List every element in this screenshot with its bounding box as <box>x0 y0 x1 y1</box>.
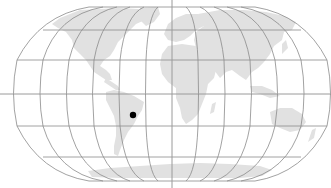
world-map <box>0 0 331 188</box>
land-central-america <box>104 78 120 90</box>
land-madagascar <box>210 102 216 114</box>
land-southeast-asia <box>250 86 280 98</box>
land-japan <box>282 40 288 54</box>
land-new-zealand <box>308 128 316 142</box>
location-marker[interactable] <box>130 112 136 118</box>
land-antarctica <box>88 163 272 178</box>
land-south-america <box>106 90 144 156</box>
land-masses <box>52 7 316 178</box>
land-north-america <box>52 8 150 80</box>
